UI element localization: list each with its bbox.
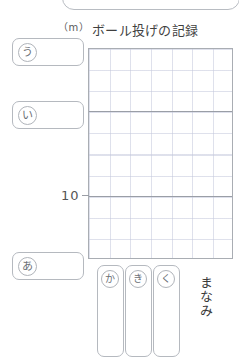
gridline-major-15 [89, 111, 232, 112]
marker-ka-icon: か [101, 270, 119, 288]
choice-tile-ku[interactable]: く [153, 265, 180, 357]
instruction-banner[interactable] [62, 0, 239, 10]
marker-i-icon: い [18, 106, 37, 125]
answer-slot-u[interactable]: う [12, 38, 84, 66]
worksheet-canvas: （m） ボール投げの記録 10 う い あ か き く まなみ [0, 0, 239, 364]
y-axis-tick-mark [82, 195, 89, 196]
bar-category-label-manami: まなみ [196, 276, 212, 318]
marker-ki-icon: き [129, 270, 147, 288]
gridline-major-10 [89, 196, 232, 197]
choice-tile-ki[interactable]: き [125, 265, 152, 357]
answer-slot-i[interactable]: い [12, 101, 84, 129]
marker-u-icon: う [18, 43, 37, 62]
chart-plot-area [88, 48, 233, 259]
y-axis-tick-10: 10 [61, 188, 80, 203]
y-axis-unit-label: （m） [58, 19, 89, 34]
answer-slot-a[interactable]: あ [12, 252, 84, 280]
chart-title: ボール投げの記録 [92, 20, 198, 39]
choice-tile-ka[interactable]: か [97, 265, 124, 357]
marker-ku-icon: く [157, 270, 175, 288]
marker-a-icon: あ [18, 257, 37, 276]
